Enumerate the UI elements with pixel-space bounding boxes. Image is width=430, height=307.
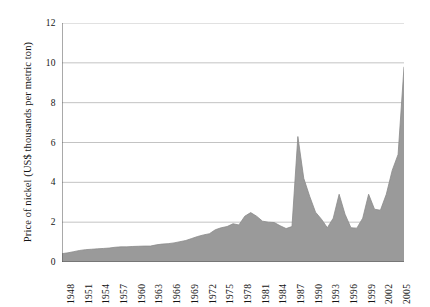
x-axis-tick-labels: 1948195119541957196019631966196919721975… (62, 266, 404, 307)
x-tick-label: 1963 (154, 284, 164, 304)
x-tick-label: 1993 (331, 284, 341, 304)
y-tick-label: 10 (34, 58, 56, 68)
y-axis-tick-labels: 024681012 (30, 0, 56, 307)
x-tick-label: 1954 (101, 284, 111, 304)
area-chart-svg (62, 23, 404, 262)
x-tick-label: 2005 (402, 284, 412, 304)
x-tick-label: 1948 (66, 284, 76, 304)
nickel-price-area (62, 67, 404, 262)
gridlines (62, 23, 404, 222)
y-tick-label: 4 (34, 177, 56, 187)
y-tick-label: 0 (34, 257, 56, 267)
x-tick-label: 1966 (172, 284, 182, 304)
x-tick-label: 1978 (243, 284, 253, 304)
x-tick-label: 1984 (278, 284, 288, 304)
x-tick-label: 1990 (314, 284, 324, 304)
x-tick-label: 1975 (225, 284, 235, 304)
y-tick-label: 2 (34, 217, 56, 227)
y-tick-label: 6 (34, 138, 56, 148)
plot-area (62, 23, 404, 262)
y-tick-label: 8 (34, 98, 56, 108)
x-tick-label: 1999 (367, 284, 377, 304)
x-tick-label: 1960 (137, 284, 147, 304)
x-tick-label: 1951 (84, 284, 94, 304)
x-tick-label: 1969 (190, 284, 200, 304)
y-tick-label: 12 (34, 18, 56, 28)
x-tick-label: 1996 (349, 284, 359, 304)
x-tick-label: 1957 (119, 284, 129, 304)
x-tick-label: 1981 (261, 284, 271, 304)
x-tick-label: 1972 (208, 284, 218, 304)
x-tick-label: 2002 (384, 284, 394, 304)
x-tick-label: 1987 (296, 284, 306, 304)
nickel-price-chart: Price of nickel (US$ thousands per metri… (0, 0, 430, 307)
